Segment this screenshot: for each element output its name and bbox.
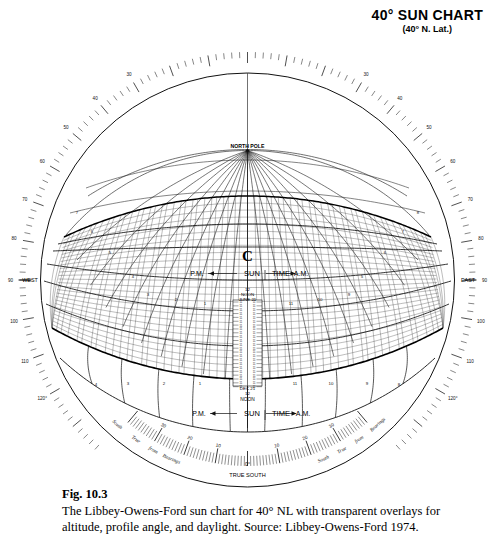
east-label: EAST <box>461 277 476 283</box>
azimuth-label: 30 <box>363 72 369 77</box>
azimuth-label: 110 <box>467 359 475 364</box>
azimuth-label: 70 <box>22 197 28 202</box>
azimuth-label: 110 <box>21 359 29 364</box>
west-marker: WEST <box>22 277 38 283</box>
azimuth-label: 50 <box>426 125 432 130</box>
azimuth-label: 30 <box>126 72 132 77</box>
sun-label-upper: SUN <box>244 269 260 278</box>
dec-noon-hour: 12 <box>245 391 250 396</box>
pm-label-lower: P.M. <box>192 410 206 417</box>
azimuth-label: 120° <box>448 396 458 401</box>
center-c-mark: C <box>242 248 253 264</box>
caption-text: The Libbey-Owens-Ford sun chart for 40° … <box>62 503 462 535</box>
azimuth-label: 120° <box>37 396 47 401</box>
figure-caption: Fig. 10.3 The Libbey-Owens-Ford sun char… <box>62 487 462 535</box>
azimuth-label: 40 <box>397 96 403 101</box>
hour-number: 10 <box>329 381 334 386</box>
azimuth-label: 50 <box>63 125 69 130</box>
pm-label-upper: P.M. <box>190 270 204 277</box>
june-noon-date: JUNE 21 <box>239 297 257 302</box>
azimuth-label: 100 <box>477 319 485 324</box>
azimuth-label: 40 <box>93 96 99 101</box>
hour-number: 10 <box>318 297 323 302</box>
azimuth-label: 90 <box>8 278 14 283</box>
hour-number: 11 <box>289 301 294 306</box>
sun-label-lower: SUN <box>244 409 260 418</box>
azimuth-label: 60 <box>450 159 456 164</box>
azimuth-label: 80 <box>12 236 18 241</box>
true-south-label: TRUE SOUTH <box>229 472 265 478</box>
am-label-upper: A.M. <box>294 270 308 277</box>
hour-number: 11 <box>293 381 298 386</box>
am-label-lower: A.M. <box>296 410 310 417</box>
azimuth-label: 90 <box>482 278 488 283</box>
east-marker: EAST <box>461 277 476 283</box>
caption-figure-number: Fig. 10.3 <box>62 487 462 503</box>
azimuth-label: 100 <box>10 319 18 324</box>
page-title: 40° SUN CHART <box>372 8 483 23</box>
azimuth-label: 60 <box>40 159 46 164</box>
sun-chart-graphic: 1111111111111111111111111111111111111111… <box>0 28 495 488</box>
azimuth-label: 80 <box>478 236 484 241</box>
north-pole-label: NORTH POLE <box>230 143 265 149</box>
dec-noon-word: NOON <box>240 397 255 402</box>
west-label: WEST <box>22 277 38 283</box>
declination-date-scale: 1111111111111111111111111111111111111111… <box>233 300 262 389</box>
azimuth-label: 70 <box>468 197 474 202</box>
sun-chart-page: 40° SUN CHART (40° N. Lat.) 111111111111… <box>0 0 495 551</box>
true-south-zero: 0° <box>245 461 250 467</box>
